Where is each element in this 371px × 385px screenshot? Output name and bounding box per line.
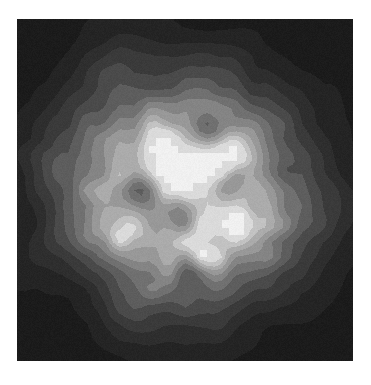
figure-margin-right bbox=[353, 0, 371, 385]
contour-map-canvas bbox=[17, 19, 353, 361]
figure-margin-left bbox=[0, 0, 17, 385]
contour-plot-area bbox=[17, 19, 353, 361]
figure-root bbox=[0, 0, 371, 385]
figure-margin-bottom bbox=[0, 361, 371, 385]
figure-margin-top bbox=[0, 0, 371, 19]
